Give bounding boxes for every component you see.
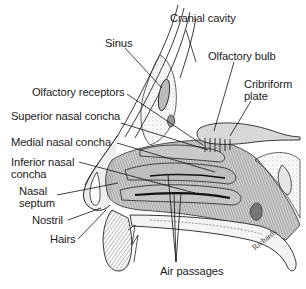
label-air-passages: Air passages bbox=[160, 265, 223, 277]
upper-lip bbox=[103, 210, 132, 271]
label-medial-nasal-concha: Medial nasal concha bbox=[11, 136, 111, 148]
label-cribriform-plate: Cribriform plate bbox=[244, 78, 292, 102]
olfactory-bulb-shape bbox=[197, 123, 300, 144]
label-olfactory-receptors: Olfactory receptors bbox=[32, 86, 125, 98]
label-superior-nasal-concha: Superior nasal concha bbox=[11, 110, 120, 122]
label-cranial-cavity: Cranial cavity bbox=[170, 12, 236, 24]
label-nasal-septum: Nasal septum bbox=[19, 185, 55, 209]
nasal-cavity-diagram: Cranial cavity Sinus Olfactory bulb Crib… bbox=[0, 0, 306, 289]
label-inferior-nasal-concha: Inferior nasal concha bbox=[11, 156, 74, 180]
label-sinus: Sinus bbox=[105, 37, 133, 49]
label-olfactory-bulb: Olfactory bulb bbox=[208, 50, 276, 62]
label-nostril: Nostril bbox=[32, 214, 63, 226]
label-hairs: Hairs bbox=[50, 233, 76, 245]
